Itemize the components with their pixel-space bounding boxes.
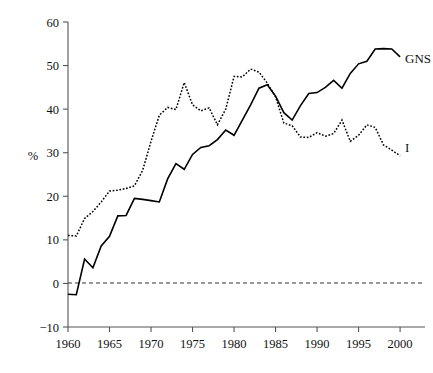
chart-container: −100102030405060 19601965197019751980198… (0, 0, 433, 373)
data-series-group (68, 49, 400, 295)
y-tick-label: 30 (47, 146, 60, 160)
x-tick-label: 2000 (388, 337, 413, 351)
series-label-gns: GNS (405, 51, 431, 66)
x-tick-label: 1985 (263, 337, 288, 351)
y-tick-label: 0 (53, 277, 59, 291)
y-tick-label: 60 (47, 16, 60, 30)
y-tick-label: 10 (47, 233, 60, 247)
y-axis-ticks: −100102030405060 (39, 16, 68, 335)
x-tick-label: 1965 (97, 337, 122, 351)
x-tick-label: 1980 (222, 337, 247, 351)
y-axis-title: % (28, 149, 38, 163)
y-tick-label: 40 (47, 103, 60, 117)
y-tick-label: 20 (47, 190, 60, 204)
y-tick-label: 50 (47, 59, 60, 73)
series-line-i (68, 69, 400, 236)
series-label-i: I (405, 140, 409, 155)
x-axis-ticks: 196019651970197519801985199019952000 (56, 327, 413, 351)
x-tick-label: 1960 (56, 337, 81, 351)
x-tick-label: 1990 (305, 337, 330, 351)
x-tick-label: 1970 (139, 337, 164, 351)
x-tick-label: 1995 (346, 337, 371, 351)
axes (68, 22, 425, 327)
series-line-gns (68, 49, 400, 295)
y-tick-label: −10 (39, 321, 59, 335)
line-chart-svg: −100102030405060 19601965197019751980198… (0, 0, 433, 373)
x-tick-label: 1975 (180, 337, 205, 351)
series-labels-group: GNSI (405, 51, 431, 155)
